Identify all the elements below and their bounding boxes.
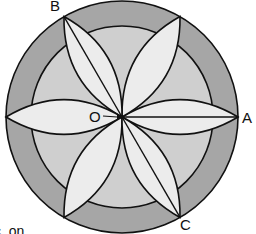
label-b: B xyxy=(50,0,60,13)
flower-diagram xyxy=(0,0,256,234)
label-c: C xyxy=(180,217,191,232)
label-a: A xyxy=(242,110,252,125)
label-o: O xyxy=(89,109,101,124)
caption-fragment: c. on xyxy=(0,224,24,234)
center-point xyxy=(120,115,124,119)
